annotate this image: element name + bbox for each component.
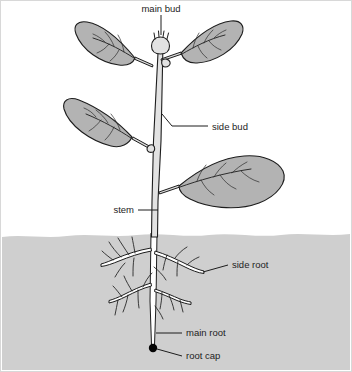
label-root-cap: root cap [186,350,220,361]
label-main-root: main root [186,327,226,338]
leaf-lower-right [159,156,284,208]
leaf-shape-upper-left [75,22,135,65]
plant-diagram-figure: main bud side bud stem side root main ro… [0,0,352,372]
leaf-shape-upper-right [181,21,243,63]
leaf-middle-left [64,99,153,150]
soil-region [2,234,350,370]
main-bud-shape [152,37,170,54]
main-bud-tip-2 [159,31,160,37]
main-bud-tip-1 [154,33,155,39]
side-bud-lower [147,145,155,153]
root-cap-dot [149,344,157,352]
leaf-shape-middle-left [64,99,132,147]
label-side-root: side root [232,259,269,270]
diagram-canvas: main bud side bud stem side root main ro… [1,1,351,371]
leader-side-bud-hook [162,114,172,126]
label-side-bud: side bud [212,121,248,132]
petiole-upper-left [134,57,153,67]
main-bud-tip-3 [163,31,164,37]
leaf-upper-right [161,21,243,63]
label-main-bud: main bud [141,3,180,14]
main-bud-tip-4 [167,33,169,39]
stem-group [152,43,164,237]
side-bud-lower-shape [147,145,155,153]
label-stem: stem [113,204,134,215]
leaf-group [64,21,285,208]
petiole-lower-right [159,185,180,194]
side-bud [162,59,171,67]
soil-layer [2,234,350,370]
leaf-upper-left [75,22,153,67]
stem-shape [152,43,164,237]
side-bud-shape [162,59,171,67]
